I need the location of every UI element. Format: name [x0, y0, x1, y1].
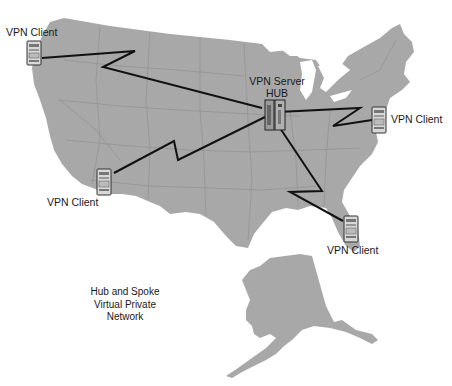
caption-line-1: Hub and Spoke: [70, 286, 180, 299]
vpn-diagram: VPN Client VPN Server HUB VPN Client VPN…: [0, 0, 452, 386]
alaska-shape: [226, 254, 378, 378]
client-label-east: VPN Client: [391, 113, 442, 125]
server-tower-icon[interactable]: [371, 106, 387, 134]
client-label-southeast: VPN Client: [327, 244, 378, 256]
us-map: [0, 0, 452, 386]
server-rack-icon[interactable]: [264, 99, 286, 131]
server-tower-icon[interactable]: [96, 168, 112, 196]
client-label-southwest: VPN Client: [47, 196, 98, 208]
hub-label-line1: VPN Server: [247, 75, 307, 87]
diagram-caption: Hub and Spoke Virtual Private Network: [70, 286, 180, 324]
hub-label-line2: HUB: [247, 87, 307, 99]
server-tower-icon[interactable]: [343, 215, 359, 243]
caption-line-2: Virtual Private: [70, 299, 180, 312]
server-tower-icon[interactable]: [26, 40, 42, 66]
client-label-northwest: VPN Client: [6, 26, 57, 38]
caption-line-3: Network: [70, 311, 180, 324]
